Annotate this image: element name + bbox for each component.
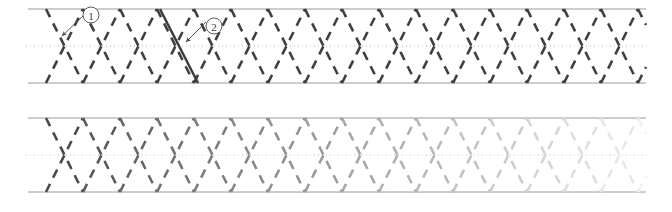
solid-diagonal-stroke: [160, 9, 198, 83]
panel-top-zigzag-segment-mirror: [638, 67, 646, 83]
figure-root: 12: [0, 0, 672, 212]
panel-uniform-zigzag: [26, 9, 648, 83]
panel-bottom-zigzag-segment: [638, 118, 646, 134]
panel-top-zigzag-segment: [638, 9, 646, 25]
annotation-2-label: 2: [211, 21, 217, 33]
panel-fading-zigzag: [26, 118, 648, 192]
annotation-1-label: 1: [88, 10, 94, 22]
annotation-1-leader-arrow-icon: [62, 16, 83, 36]
annotation-2-leader-arrow-icon: [186, 22, 206, 42]
panel-bottom-zigzag-segment-mirror: [638, 176, 646, 192]
diagram-canvas: 12: [0, 0, 672, 212]
